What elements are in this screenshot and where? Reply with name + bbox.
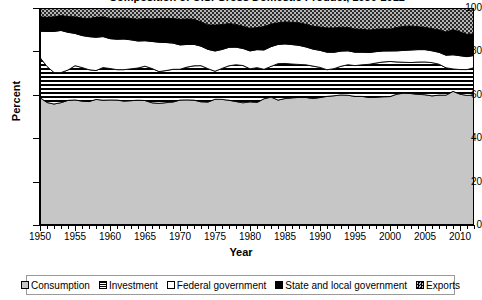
x-tick-mark-minor xyxy=(173,226,174,229)
legend-item-federal-government[interactable]: Federal government xyxy=(167,280,267,291)
y-tick-label: 60 xyxy=(446,90,482,100)
x-tick-mark-minor xyxy=(341,226,342,229)
x-tick-mark-minor xyxy=(257,226,258,229)
x-tick-label: 1985 xyxy=(265,231,305,242)
x-tick-label: 1955 xyxy=(55,231,95,242)
x-tick-mark-minor xyxy=(439,226,440,229)
x-tick-mark-minor xyxy=(453,226,454,229)
x-tick-mark-minor xyxy=(432,226,433,229)
y-axis-label: Percent xyxy=(10,66,22,136)
x-tick-mark-minor xyxy=(446,226,447,229)
x-tick-mark-minor xyxy=(278,226,279,229)
x-tick-label: 1980 xyxy=(230,231,270,242)
x-tick-mark-minor xyxy=(369,226,370,229)
y-tick-label: 40 xyxy=(446,133,482,143)
x-tick-mark-minor xyxy=(61,226,62,229)
state-local-government-swatch xyxy=(275,281,283,289)
x-tick-label: 1970 xyxy=(160,231,200,242)
consumption-swatch xyxy=(21,281,29,289)
exports-swatch xyxy=(416,281,424,289)
x-tick-label: 2005 xyxy=(405,231,445,242)
x-tick-mark-minor xyxy=(187,226,188,229)
x-tick-label: 1995 xyxy=(335,231,375,242)
federal-government-swatch xyxy=(167,281,175,289)
legend-label: State and local government xyxy=(285,280,407,291)
x-tick-mark-minor xyxy=(327,226,328,229)
legend-item-exports[interactable]: Exports xyxy=(416,280,460,291)
x-tick-mark-minor xyxy=(292,226,293,229)
y-tick-mark xyxy=(33,51,39,52)
x-tick-mark-minor xyxy=(89,226,90,229)
x-tick-label: 1965 xyxy=(125,231,165,242)
x-tick-mark-minor xyxy=(411,226,412,229)
x-tick-mark-minor xyxy=(418,226,419,229)
stacked-area-series xyxy=(40,8,474,225)
x-tick-mark-minor xyxy=(96,226,97,229)
investment-swatch xyxy=(99,281,107,289)
plot-area xyxy=(40,8,474,225)
x-tick-mark-minor xyxy=(299,226,300,229)
y-tick-mark xyxy=(33,138,39,139)
x-tick-mark-minor xyxy=(117,226,118,229)
legend-item-consumption[interactable]: Consumption xyxy=(21,280,90,291)
y-tick-mark xyxy=(33,95,39,96)
legend-label: Consumption xyxy=(31,280,90,291)
x-tick-label: 1990 xyxy=(300,231,340,242)
x-tick-mark-minor xyxy=(236,226,237,229)
x-tick-label: 1975 xyxy=(195,231,235,242)
x-axis-label: Year xyxy=(0,246,482,258)
chart-title: Composition of U.S. Gross Domestic Produ… xyxy=(40,0,474,3)
x-tick-mark-minor xyxy=(152,226,153,229)
x-tick-mark-minor xyxy=(334,226,335,229)
x-tick-mark-minor xyxy=(222,226,223,229)
x-tick-label: 2010 xyxy=(440,231,480,242)
x-tick-mark-minor xyxy=(138,226,139,229)
x-tick-mark-minor xyxy=(306,226,307,229)
x-tick-mark-minor xyxy=(208,226,209,229)
x-tick-mark-minor xyxy=(383,226,384,229)
x-tick-mark-minor xyxy=(103,226,104,229)
x-tick-label: 1950 xyxy=(20,231,60,242)
x-tick-mark-minor xyxy=(474,226,475,229)
y-axis-line xyxy=(39,8,40,226)
x-tick-mark-minor xyxy=(47,226,48,229)
legend-label: Investment xyxy=(109,280,158,291)
x-tick-mark-minor xyxy=(131,226,132,229)
y-tick-mark xyxy=(33,182,39,183)
x-tick-mark-minor xyxy=(243,226,244,229)
x-tick-mark-minor xyxy=(68,226,69,229)
x-tick-mark-minor xyxy=(397,226,398,229)
x-tick-mark-minor xyxy=(348,226,349,229)
x-tick-mark-minor xyxy=(376,226,377,229)
y-tick-label: 20 xyxy=(446,177,482,187)
x-tick-mark-minor xyxy=(54,226,55,229)
legend-item-investment[interactable]: Investment xyxy=(99,280,158,291)
legend-item-state-and-local-government[interactable]: State and local government xyxy=(275,280,407,291)
x-tick-mark-minor xyxy=(271,226,272,229)
y-tick-label: 80 xyxy=(446,46,482,56)
legend-label: Exports xyxy=(426,280,460,291)
x-tick-mark-minor xyxy=(404,226,405,229)
chart-figure: Composition of U.S. Gross Domestic Produ… xyxy=(0,0,482,300)
x-tick-mark-minor xyxy=(82,226,83,229)
x-tick-mark-minor xyxy=(124,226,125,229)
x-tick-mark-minor xyxy=(264,226,265,229)
x-tick-mark-minor xyxy=(313,226,314,229)
y-tick-mark xyxy=(33,8,39,9)
x-tick-mark-minor xyxy=(166,226,167,229)
x-tick-mark-minor xyxy=(159,226,160,229)
x-tick-mark-minor xyxy=(467,226,468,229)
x-tick-label: 1960 xyxy=(90,231,130,242)
x-tick-mark-minor xyxy=(229,226,230,229)
y-tick-label: 100 xyxy=(446,3,482,13)
x-tick-label: 2000 xyxy=(370,231,410,242)
x-tick-mark-minor xyxy=(362,226,363,229)
chart-legend: ConsumptionInvestmentFederal governmentS… xyxy=(26,275,455,295)
x-tick-mark-minor xyxy=(194,226,195,229)
area-band-consumption xyxy=(40,91,474,225)
legend-label: Federal government xyxy=(177,280,267,291)
x-tick-mark-minor xyxy=(201,226,202,229)
